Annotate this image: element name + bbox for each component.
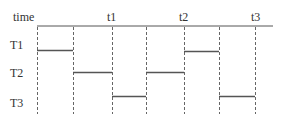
timing-diagram-canvas: time t1 t2 t3 T1 T2 T3 — [0, 0, 281, 122]
marker-t2: t2 — [179, 10, 188, 24]
marker-t3: t3 — [251, 10, 260, 24]
row-label-t3: T3 — [10, 96, 23, 110]
grid-lines — [38, 27, 256, 114]
timing-diagram: time t1 t2 t3 T1 T2 T3 — [0, 0, 281, 122]
marker-t1: t1 — [107, 10, 116, 24]
axis-label-time: time — [13, 10, 34, 24]
row-label-t2: T2 — [10, 66, 23, 80]
row-label-t1: T1 — [10, 38, 23, 52]
